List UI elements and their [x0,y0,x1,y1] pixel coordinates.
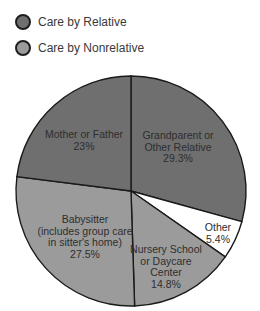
slice-label: Other5.4% [205,221,232,245]
pie-chart: Grandparent orOther Relative29.3%Other5.… [0,0,260,311]
